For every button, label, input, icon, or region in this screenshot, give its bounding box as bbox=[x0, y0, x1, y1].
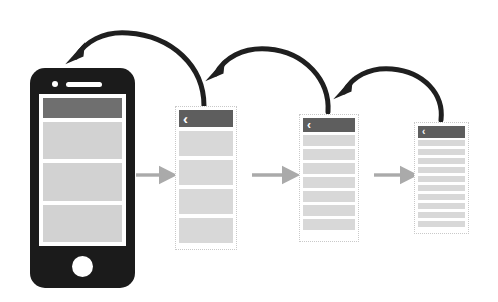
camera-dot-icon bbox=[52, 81, 58, 87]
list-item[interactable] bbox=[179, 160, 233, 185]
home-button-icon[interactable] bbox=[72, 256, 93, 277]
wireframe-screen-level-1[interactable]: ‹ bbox=[175, 106, 237, 250]
smartphone-mockup[interactable] bbox=[30, 68, 135, 288]
diagram-canvas: ‹ ‹ ‹ bbox=[0, 0, 498, 302]
list-item[interactable] bbox=[418, 203, 465, 209]
back-arrow-level2-to-level1 bbox=[205, 49, 328, 112]
list-item[interactable] bbox=[418, 185, 465, 191]
list-item[interactable] bbox=[303, 135, 355, 146]
chevron-left-icon[interactable]: ‹ bbox=[307, 119, 311, 131]
list-item[interactable] bbox=[303, 177, 355, 188]
list-item[interactable] bbox=[418, 158, 465, 164]
phone-content-block[interactable] bbox=[43, 163, 122, 200]
panel-header-bar: ‹ bbox=[418, 126, 465, 138]
list-item[interactable] bbox=[179, 189, 233, 214]
list-item[interactable] bbox=[418, 140, 465, 146]
list-item[interactable] bbox=[418, 149, 465, 155]
wireframe-screen-level-2[interactable]: ‹ bbox=[299, 114, 359, 242]
chevron-left-icon[interactable]: ‹ bbox=[183, 111, 188, 126]
wireframe-screen-level-3[interactable]: ‹ bbox=[414, 122, 469, 234]
speaker-slot-icon bbox=[66, 82, 102, 87]
list-item[interactable] bbox=[303, 205, 355, 216]
list-item[interactable] bbox=[418, 212, 465, 218]
list-item[interactable] bbox=[418, 194, 465, 200]
list-item[interactable] bbox=[418, 176, 465, 182]
list-item[interactable] bbox=[303, 163, 355, 174]
list-item[interactable] bbox=[303, 191, 355, 202]
phone-content-block[interactable] bbox=[43, 122, 122, 159]
panel-header-bar: ‹ bbox=[303, 118, 355, 132]
list-item[interactable] bbox=[179, 131, 233, 156]
list-item[interactable] bbox=[303, 149, 355, 160]
phone-content-block[interactable] bbox=[43, 205, 122, 242]
back-arrow-level3-to-level2 bbox=[333, 69, 441, 120]
panel-header-bar: ‹ bbox=[179, 110, 233, 127]
list-item[interactable] bbox=[303, 219, 355, 230]
list-item[interactable] bbox=[418, 167, 465, 173]
list-item[interactable] bbox=[418, 221, 465, 227]
list-item[interactable] bbox=[179, 218, 233, 243]
phone-screen-header bbox=[43, 98, 122, 118]
chevron-left-icon[interactable]: ‹ bbox=[422, 127, 425, 137]
phone-screen[interactable] bbox=[39, 94, 126, 246]
